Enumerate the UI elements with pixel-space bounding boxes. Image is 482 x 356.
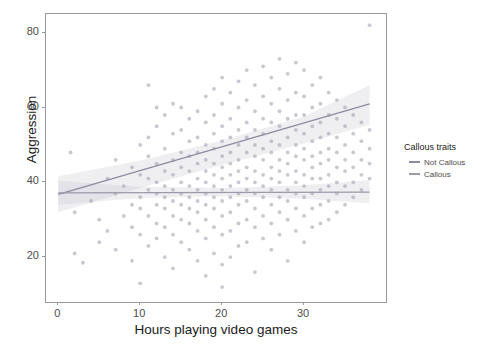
data-point xyxy=(261,195,265,199)
data-point xyxy=(163,113,167,117)
data-point xyxy=(228,184,232,188)
data-point xyxy=(286,72,290,76)
data-point xyxy=(319,162,323,166)
data-point xyxy=(294,61,298,65)
data-point xyxy=(204,121,208,125)
data-point xyxy=(228,150,232,154)
data-point xyxy=(220,214,224,218)
data-point xyxy=(212,162,216,166)
data-point xyxy=(179,106,183,110)
data-point xyxy=(335,180,339,184)
data-point xyxy=(81,261,85,265)
data-point xyxy=(343,203,347,207)
legend-item[interactable]: Not Callous xyxy=(408,156,482,168)
data-point xyxy=(212,113,216,117)
data-point xyxy=(278,143,282,147)
x-axis-label: Hours playing video games xyxy=(45,322,387,337)
data-point xyxy=(220,188,224,192)
data-point xyxy=(220,124,224,128)
data-point xyxy=(138,281,142,285)
data-point xyxy=(278,87,282,91)
data-point xyxy=(368,128,372,132)
data-point xyxy=(269,177,273,181)
data-point xyxy=(269,121,273,125)
data-point xyxy=(319,188,323,192)
x-tick-mark xyxy=(221,302,222,305)
regression-line xyxy=(58,104,369,195)
data-point xyxy=(155,124,159,128)
data-point xyxy=(204,94,208,98)
data-point xyxy=(228,195,232,199)
data-point xyxy=(220,102,224,106)
data-point xyxy=(187,184,191,188)
data-point xyxy=(114,158,118,162)
data-point xyxy=(179,180,183,184)
data-point xyxy=(286,199,290,203)
data-point xyxy=(319,203,323,207)
data-point xyxy=(155,222,159,226)
data-point xyxy=(245,199,249,203)
data-point xyxy=(179,128,183,132)
data-point xyxy=(327,218,331,222)
data-point xyxy=(163,207,167,211)
data-point xyxy=(245,68,249,72)
data-point xyxy=(319,102,323,106)
data-point xyxy=(343,158,347,162)
data-point xyxy=(237,169,241,173)
data-point xyxy=(130,225,134,229)
data-point xyxy=(196,136,200,140)
data-point xyxy=(171,173,175,177)
data-point xyxy=(179,240,183,244)
data-point xyxy=(245,165,249,169)
y-axis-label: Aggression xyxy=(24,75,39,185)
data-point xyxy=(138,207,142,211)
data-point xyxy=(261,173,265,177)
data-point xyxy=(302,184,306,188)
data-point xyxy=(310,177,314,181)
data-point xyxy=(196,229,200,233)
data-point xyxy=(327,173,331,177)
data-point xyxy=(228,173,232,177)
data-point xyxy=(237,180,241,184)
data-point xyxy=(294,154,298,158)
data-point xyxy=(302,158,306,162)
data-point xyxy=(237,143,241,147)
y-tick-mark xyxy=(42,256,45,257)
data-point xyxy=(228,91,232,95)
data-point xyxy=(351,195,355,199)
data-point xyxy=(212,225,216,229)
data-point xyxy=(261,237,265,241)
data-point xyxy=(138,233,142,237)
data-point xyxy=(360,173,364,177)
data-point xyxy=(343,124,347,128)
x-tick-label-30: 30 xyxy=(288,307,318,319)
data-point xyxy=(187,169,191,173)
data-point xyxy=(237,203,241,207)
data-point xyxy=(360,121,364,125)
data-point xyxy=(269,139,273,143)
data-point xyxy=(228,210,232,214)
data-point xyxy=(245,98,249,102)
legend-item[interactable]: Callous xyxy=(408,168,482,180)
data-point xyxy=(368,177,372,181)
data-point xyxy=(368,162,372,166)
data-point xyxy=(294,169,298,173)
data-point xyxy=(220,177,224,181)
plot-canvas xyxy=(46,14,386,302)
data-point xyxy=(147,83,151,87)
data-point xyxy=(204,203,208,207)
data-point xyxy=(187,195,191,199)
data-point xyxy=(196,259,200,263)
data-point xyxy=(319,76,323,80)
data-point xyxy=(302,147,306,151)
data-point xyxy=(245,218,249,222)
data-point xyxy=(220,76,224,80)
data-point xyxy=(155,106,159,110)
data-point xyxy=(286,162,290,166)
data-point xyxy=(163,147,167,151)
data-point xyxy=(155,180,159,184)
data-point xyxy=(228,255,232,259)
data-point xyxy=(335,136,339,140)
data-point xyxy=(204,180,208,184)
data-point xyxy=(245,121,249,125)
